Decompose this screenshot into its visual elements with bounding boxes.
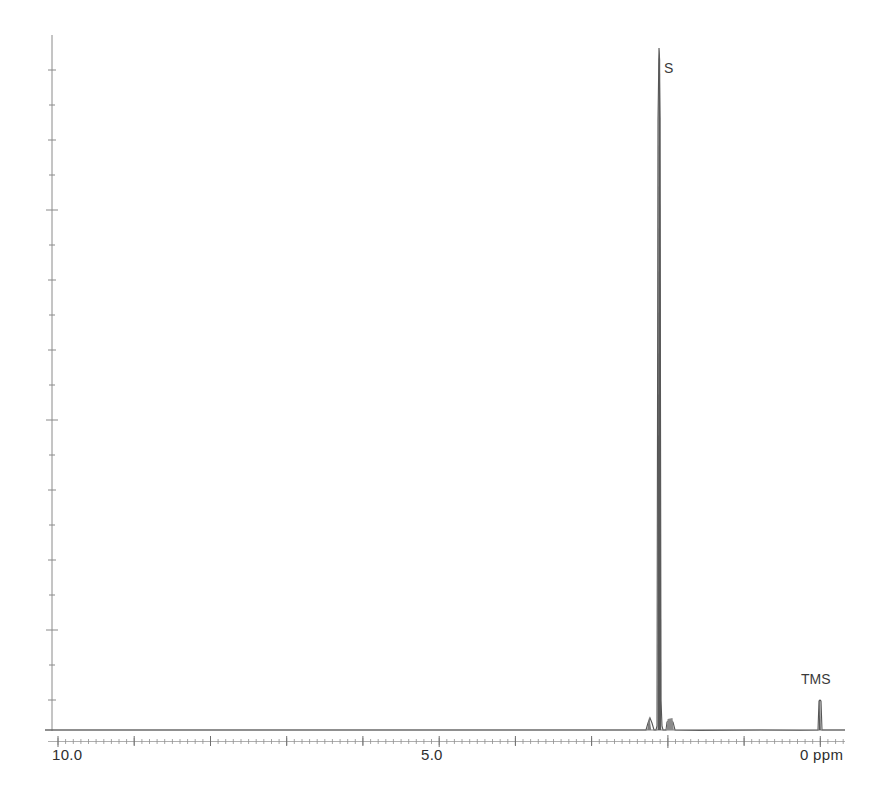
satellite-peak-right <box>667 718 674 730</box>
spectrum-plot-area <box>0 0 883 802</box>
ppm-ruler-minor-ticks <box>58 738 843 746</box>
ppm-tick-label-5: 5.0 <box>421 746 443 763</box>
spectrum-trace <box>45 48 845 730</box>
peak-annotation-solvent: S <box>664 60 673 76</box>
peak-annotation-tms: TMS <box>801 671 831 687</box>
nmr-spectrum-figure: 10.0 5.0 0 ppm S TMS <box>0 0 883 802</box>
ppm-tick-label-0-ppm: 0 ppm <box>800 746 843 763</box>
ppm-tick-label-10: 10.0 <box>52 746 82 763</box>
